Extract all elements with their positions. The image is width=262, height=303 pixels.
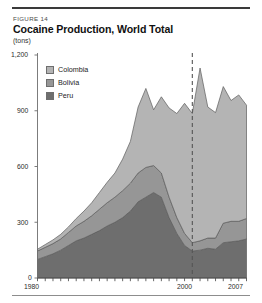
legend-label-colombia: Colombia: [58, 65, 88, 74]
chart-legend: Colombia Bolivia Peru: [46, 64, 116, 103]
y-axis-tick-label-1200: 1,200: [11, 51, 28, 58]
legend-item-bolivia: Bolivia: [46, 77, 116, 88]
legend-swatch-peru: [46, 92, 54, 100]
stacked-area-chart: [0, 0, 262, 303]
legend-item-colombia: Colombia: [46, 64, 116, 75]
x-axis-tick-label-1980: 1980: [24, 283, 39, 290]
legend-label-peru: Peru: [58, 91, 73, 100]
figure-container: FIGURE 14 Cocaine Production, World Tota…: [0, 0, 262, 303]
legend-swatch-colombia: [46, 66, 54, 74]
x-axis-tick-label-2007: 2007: [228, 283, 243, 290]
legend-label-bolivia: Bolivia: [58, 78, 79, 87]
y-axis-tick-label-900: 900: [17, 107, 28, 114]
legend-swatch-bolivia: [46, 79, 54, 87]
plot-area: [0, 0, 262, 303]
x-axis-tick-label-2000: 2000: [177, 283, 192, 290]
y-axis-tick-label-600: 600: [17, 163, 28, 170]
bottom-divider-rule: [12, 295, 250, 296]
y-axis-tick-label-300: 300: [17, 219, 28, 226]
legend-item-peru: Peru: [46, 90, 116, 101]
y-axis-tick-label-0: 0: [28, 274, 32, 281]
